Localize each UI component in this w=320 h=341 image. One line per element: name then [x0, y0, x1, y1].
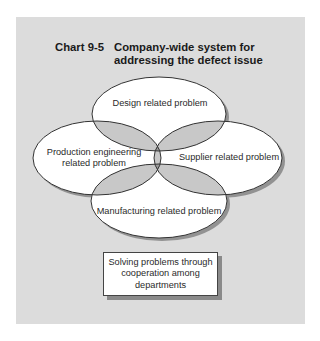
result-box-line3: departments: [135, 280, 186, 292]
label-supplier: Supplier related problem: [178, 152, 280, 163]
label-manufacturing: Manufacturing related problem: [96, 206, 222, 217]
label-production-engineering-line2: related problem: [62, 158, 126, 168]
result-box-line2: cooperation among: [121, 268, 200, 280]
result-box-line1: Solving problems through: [108, 257, 212, 269]
label-production-engineering: Production engineering related problem: [38, 147, 150, 169]
label-production-engineering-line1: Production engineering: [47, 147, 142, 157]
label-design: Design related problem: [104, 98, 216, 109]
result-box: Solving problems through cooperation amo…: [103, 252, 218, 296]
